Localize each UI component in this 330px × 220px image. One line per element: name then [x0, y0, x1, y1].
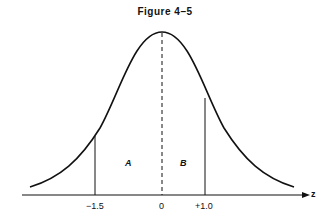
- region-a-label: A: [125, 158, 132, 168]
- axis-label-z: z: [311, 189, 316, 199]
- axis-arrow-icon: [302, 192, 310, 198]
- normal-curve-diagram: [0, 0, 330, 220]
- region-b-label: B: [180, 158, 187, 168]
- tick-plus-1-0: +1.0: [195, 201, 213, 211]
- tick-0: 0: [159, 201, 164, 211]
- tick-minus-1-5: −1.5: [86, 201, 104, 211]
